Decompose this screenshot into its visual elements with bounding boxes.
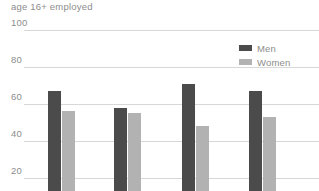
- y-axis-tick-label: 60: [11, 92, 22, 102]
- women-swatch-icon: [239, 59, 252, 65]
- bar-women-group-3: [196, 126, 209, 191]
- bar-men-group-4: [249, 91, 262, 191]
- y-axis-tick-label: 20: [11, 166, 22, 176]
- chart-legend: Men Women: [239, 41, 291, 69]
- bar-women-group-2: [128, 113, 141, 191]
- gridline: [24, 104, 319, 105]
- legend-item-men: Men: [239, 41, 291, 55]
- gridline: [24, 30, 319, 31]
- plot-area: 10080604020: [0, 0, 319, 191]
- y-axis-tick-label: 80: [11, 55, 22, 65]
- legend-label-women: Women: [257, 57, 291, 68]
- y-axis-tick-label: 40: [11, 129, 22, 139]
- bar-men-group-2: [114, 108, 127, 191]
- men-swatch-icon: [239, 45, 252, 51]
- legend-label-men: Men: [257, 43, 276, 54]
- bar-women-group-1: [62, 111, 75, 191]
- bar-men-group-3: [182, 84, 195, 191]
- bar-men-group-1: [48, 91, 61, 191]
- legend-item-women: Women: [239, 55, 291, 69]
- y-axis-tick-label: 100: [11, 18, 27, 28]
- bar-chart: age 16+ employed 10080604020 Men Women: [0, 0, 319, 191]
- bar-women-group-4: [263, 117, 276, 191]
